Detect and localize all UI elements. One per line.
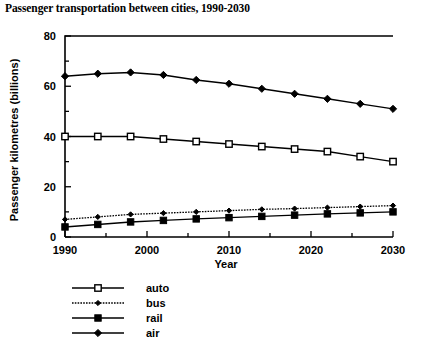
data-point-bus — [194, 209, 199, 214]
y-axis-label: Passenger kilometres (billions) — [8, 58, 20, 221]
data-point-air — [357, 100, 364, 107]
chart-container: Passenger kilometres (billions) Year 020… — [0, 0, 429, 352]
data-point-bus — [259, 207, 264, 212]
data-point-auto — [357, 153, 363, 159]
data-point-rail — [62, 224, 68, 230]
chart-legend: autobusrailair — [72, 282, 170, 339]
data-point-auto — [193, 138, 199, 144]
data-point-air — [324, 95, 331, 102]
series-line-air — [65, 72, 393, 108]
y-tick-label: 80 — [44, 30, 56, 42]
legend-marker-air — [94, 329, 101, 336]
data-point-auto — [95, 133, 101, 139]
y-tick-label: 0 — [50, 231, 56, 243]
legend-label: rail — [146, 312, 163, 324]
legend-marker-bus — [95, 300, 100, 305]
data-point-rail — [259, 213, 265, 219]
data-point-air — [193, 76, 200, 83]
data-point-rail — [226, 214, 232, 220]
data-point-rail — [193, 216, 199, 222]
line-chart-svg: Passenger kilometres (billions) Year 020… — [0, 0, 429, 352]
data-point-auto — [390, 158, 396, 164]
data-point-bus — [226, 208, 231, 213]
data-point-bus — [95, 214, 100, 219]
legend-item-auto[interactable]: auto — [72, 282, 170, 294]
x-tick-label: 2030 — [381, 244, 405, 256]
x-axis-label: Year — [214, 258, 238, 270]
data-point-bus — [358, 204, 363, 209]
data-point-air — [258, 85, 265, 92]
series-auto — [62, 133, 396, 165]
data-point-auto — [160, 136, 166, 142]
legend-item-bus[interactable]: bus — [72, 297, 166, 309]
x-axis-tick-labels: 19902000201020202030 — [53, 244, 405, 256]
series-layer — [61, 69, 396, 230]
data-point-bus — [161, 211, 166, 216]
data-point-auto — [324, 148, 330, 154]
y-tick-label: 40 — [44, 131, 56, 143]
data-point-bus — [62, 217, 67, 222]
series-air — [61, 69, 396, 113]
data-point-rail — [357, 210, 363, 216]
data-point-auto — [226, 141, 232, 147]
data-point-bus — [128, 212, 133, 217]
data-point-bus — [325, 205, 330, 210]
x-axis-tickmarks — [65, 231, 393, 237]
data-point-air — [160, 71, 167, 78]
legend-item-air[interactable]: air — [72, 327, 160, 339]
y-tick-label: 20 — [44, 181, 56, 193]
legend-label: auto — [146, 282, 170, 294]
data-point-rail — [127, 219, 133, 225]
data-point-bus — [292, 206, 297, 211]
data-point-air — [389, 105, 396, 112]
x-tick-label: 2020 — [299, 244, 323, 256]
data-point-rail — [324, 211, 330, 217]
legend-marker-rail — [95, 315, 101, 321]
x-tick-label: 1990 — [53, 244, 77, 256]
y-axis-tick-labels: 020406080 — [44, 30, 56, 243]
data-point-auto — [259, 143, 265, 149]
data-point-rail — [390, 209, 396, 215]
x-tick-label: 2000 — [135, 244, 159, 256]
data-point-bus — [390, 203, 395, 208]
x-tick-label: 2010 — [217, 244, 241, 256]
data-point-auto — [291, 146, 297, 152]
data-point-rail — [95, 221, 101, 227]
data-point-air — [225, 80, 232, 87]
data-point-air — [94, 70, 101, 77]
data-point-air — [127, 69, 134, 76]
data-point-rail — [291, 212, 297, 218]
legend-marker-auto — [95, 285, 101, 291]
data-point-air — [61, 73, 68, 80]
data-point-auto — [62, 133, 68, 139]
data-point-auto — [127, 133, 133, 139]
legend-label: bus — [146, 297, 166, 309]
legend-label: air — [146, 327, 160, 339]
legend-item-rail[interactable]: rail — [72, 312, 163, 324]
data-point-air — [291, 90, 298, 97]
y-tick-label: 60 — [44, 80, 56, 92]
data-point-rail — [160, 217, 166, 223]
